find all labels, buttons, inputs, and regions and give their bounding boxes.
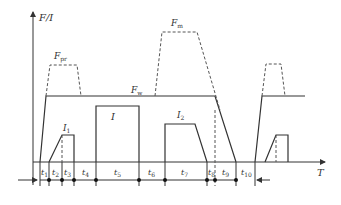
interval-t1: t1 xyxy=(41,168,48,178)
force-preload-curve-cycle2 xyxy=(262,64,285,96)
y-axis-label: F/I xyxy=(38,12,54,23)
current-post-curve xyxy=(165,124,207,162)
interval-t4: t4 xyxy=(82,168,89,178)
interval-t3: t3 xyxy=(64,168,71,178)
force-preload-curve xyxy=(46,65,81,96)
current-preheat-label: I1 xyxy=(62,123,70,134)
current-post-label: I2 xyxy=(176,110,185,121)
interval-t8: t8 xyxy=(208,168,215,178)
force-preload-label: Fpr xyxy=(53,51,67,63)
force-forge-curve xyxy=(155,32,220,110)
interval-t10: t10 xyxy=(241,168,252,178)
interval-t5: t5 xyxy=(114,168,121,178)
force-forge-label: Fm xyxy=(170,18,183,29)
weld-cycle-diagram: F/I T Fw Fpr Fm I1 I I2 xyxy=(0,0,341,205)
interval-t6: t6 xyxy=(148,168,155,178)
interval-t9: t9 xyxy=(222,168,229,178)
force-weld-label: Fw xyxy=(130,85,143,96)
force-weld-curve-cycle2 xyxy=(255,96,305,162)
x-axis-label: T xyxy=(317,167,325,178)
interval-t7: t7 xyxy=(181,168,188,178)
current-weld-label: I xyxy=(110,111,116,122)
current-weld-curve xyxy=(96,106,139,162)
interval-t2: t2 xyxy=(52,168,59,178)
